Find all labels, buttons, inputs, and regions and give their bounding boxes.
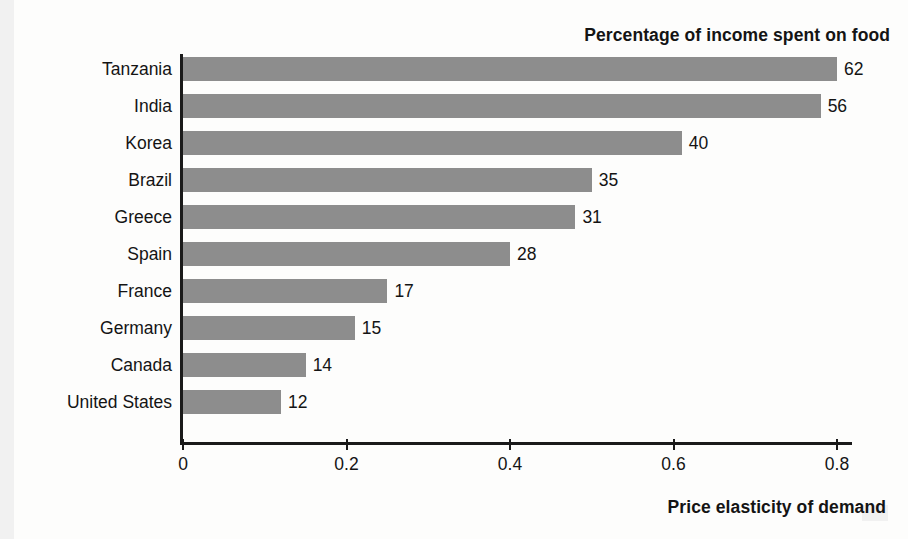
- bar-india: [183, 94, 821, 118]
- x-axis-title: Price elasticity of demand: [667, 497, 886, 518]
- bar-row: Greece31: [183, 202, 837, 239]
- bar-france: [183, 279, 387, 303]
- x-tick-label-0.8: 0.8: [825, 454, 849, 475]
- bar-row: Brazil35: [183, 165, 837, 202]
- bar-value-brazil: 35: [592, 168, 618, 192]
- category-label-korea: Korea: [125, 131, 172, 155]
- category-label-france: France: [118, 279, 172, 303]
- x-tick-label-0: 0: [178, 454, 188, 475]
- x-tick-0.4: [509, 439, 511, 450]
- bar-chart-figure: Percentage of income spent on food Tanza…: [0, 0, 908, 539]
- bar-row: France17: [183, 276, 837, 313]
- bar-value-india: 56: [821, 94, 847, 118]
- category-label-spain: Spain: [127, 242, 172, 266]
- bar-canada: [183, 353, 306, 377]
- bar-value-korea: 40: [682, 131, 708, 155]
- bar-value-united-states: 12: [281, 390, 307, 414]
- bar-greece: [183, 205, 575, 229]
- x-tick-label-0.4: 0.4: [498, 454, 522, 475]
- x-tick-0: [182, 439, 184, 450]
- bar-brazil: [183, 168, 592, 192]
- category-label-germany: Germany: [100, 316, 172, 340]
- category-label-india: India: [134, 94, 172, 118]
- chart-title: Percentage of income spent on food: [584, 25, 890, 46]
- bar-germany: [183, 316, 355, 340]
- category-label-greece: Greece: [115, 205, 172, 229]
- category-label-tanzania: Tanzania: [102, 57, 172, 81]
- bar-value-canada: 14: [306, 353, 332, 377]
- bar-row: United States12: [183, 387, 837, 424]
- bar-row: Canada14: [183, 350, 837, 387]
- plot-area: Tanzania62India56Korea40Brazil35Greece31…: [183, 54, 837, 442]
- category-label-united-states: United States: [67, 390, 172, 414]
- bar-row: Spain28: [183, 239, 837, 276]
- bar-row: India56: [183, 91, 837, 128]
- bar-value-spain: 28: [510, 242, 536, 266]
- bar-united-states: [183, 390, 281, 414]
- bar-korea: [183, 131, 682, 155]
- bar-spain: [183, 242, 510, 266]
- category-label-brazil: Brazil: [128, 168, 172, 192]
- bar-row: Germany15: [183, 313, 837, 350]
- bar-value-tanzania: 62: [837, 57, 863, 81]
- scan-edge-artifact: [0, 0, 14, 539]
- bar-row: Korea40: [183, 128, 837, 165]
- category-label-canada: Canada: [111, 353, 172, 377]
- bar-value-greece: 31: [575, 205, 601, 229]
- x-axis-line: [180, 442, 852, 445]
- x-tick-0.2: [346, 439, 348, 450]
- bar-value-germany: 15: [355, 316, 381, 340]
- bar-row: Tanzania62: [183, 54, 837, 91]
- x-tick-label-0.2: 0.2: [334, 454, 358, 475]
- bar-tanzania: [183, 57, 837, 81]
- bar-value-france: 17: [387, 279, 413, 303]
- x-tick-0.8: [836, 439, 838, 450]
- x-tick-0.6: [673, 439, 675, 450]
- x-tick-label-0.6: 0.6: [661, 454, 685, 475]
